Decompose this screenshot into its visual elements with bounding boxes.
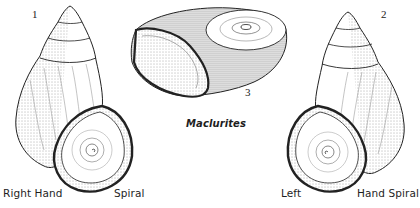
panel-number-2: 2 bbox=[381, 8, 387, 20]
left-hand-shell-drawing bbox=[288, 12, 404, 192]
panel-number-1: 1 bbox=[32, 8, 38, 20]
panel-number-3: 3 bbox=[245, 86, 251, 98]
right-spiral-label: Spiral bbox=[114, 187, 145, 199]
maclurites-caption: Maclurites bbox=[186, 118, 246, 129]
left-hand-spiral-label: Hand Spiral bbox=[357, 187, 419, 199]
maclurites-shell-drawing bbox=[131, 8, 286, 97]
right-hand-label: Right Hand bbox=[3, 187, 63, 199]
right-hand-shell-drawing bbox=[16, 6, 132, 192]
shell-figure bbox=[0, 0, 420, 208]
left-label: Left bbox=[281, 187, 301, 199]
